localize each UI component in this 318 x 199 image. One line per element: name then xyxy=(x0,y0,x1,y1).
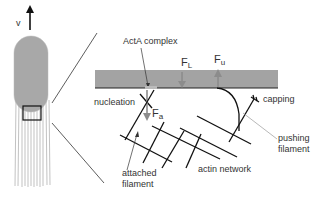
acta-complex-label: ActA complex xyxy=(123,36,178,46)
velocity-label: v xyxy=(16,18,21,28)
listeria-actin-diagram: v ActA complex xyxy=(0,0,318,199)
bacterial-surface xyxy=(95,70,278,88)
attached-filament-label-2: filament xyxy=(122,179,154,189)
bent-filament xyxy=(217,88,239,131)
nucleation-label: nucleation xyxy=(94,97,135,107)
bacterium-body xyxy=(14,36,48,112)
magnified-panel: ActA complex FL Fu nucleation Fa xyxy=(94,36,310,189)
pushing-filament-label-2: filament xyxy=(278,144,310,154)
actin-network-label: actin network xyxy=(198,164,252,174)
attached-filament-label-1: attached xyxy=(122,168,157,178)
velocity-arrowhead-icon xyxy=(26,5,34,13)
attached-leader-arrowhead-icon xyxy=(135,131,139,137)
bacterium-panel: v xyxy=(14,5,50,187)
force-Fa-label: Fa xyxy=(152,107,164,121)
comet-tail xyxy=(15,100,50,187)
pushing-filament-label-1: pushing xyxy=(278,133,310,143)
force-Fu-label: Fu xyxy=(214,53,225,67)
force-Fa-arrowhead-icon xyxy=(143,113,151,121)
actin-network xyxy=(120,90,254,168)
zoom-line-top xyxy=(52,33,97,103)
force-FL-label: FL xyxy=(181,56,193,70)
capping-label: capping xyxy=(263,94,295,104)
acta-complex xyxy=(145,86,157,89)
zoom-line-bottom xyxy=(52,123,104,183)
pushing-leader-line xyxy=(243,113,277,139)
